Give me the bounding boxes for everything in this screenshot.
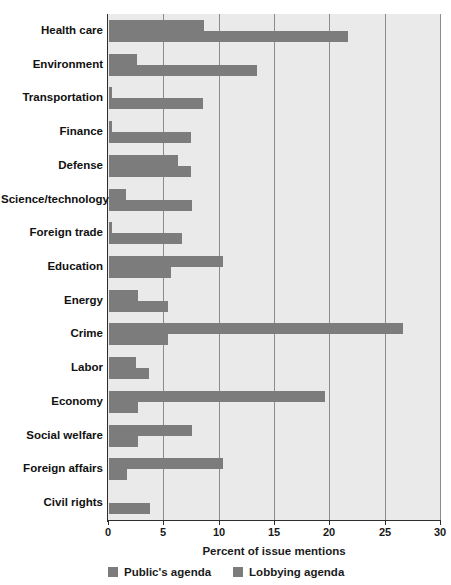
category-label: Energy [1,294,103,307]
bar [109,31,348,42]
bar [109,233,182,244]
gridline [440,14,441,520]
x-axis-tick-label: 15 [259,525,289,539]
gridline [329,14,330,520]
bar [109,290,138,301]
legend-item-publics-agenda: Public's agenda [108,566,211,578]
bar [109,65,257,76]
bar [109,357,136,368]
x-axis-tick-label: 5 [148,525,178,539]
x-axis-tick-label: 25 [370,525,400,539]
gridline [274,14,275,520]
category-label: Social welfare [1,429,103,442]
chart-legend: Public's agenda Lobbying agenda [108,566,366,578]
bar [109,436,138,447]
category-label: Civil rights [1,496,103,509]
bar [109,256,223,267]
category-label: Economy [1,395,103,408]
bar [109,222,112,233]
y-axis-line [107,14,108,522]
bar [109,402,138,413]
legend-label: Public's agenda [124,566,211,578]
x-axis-title: Percent of issue mentions [108,545,440,557]
bar [109,155,178,166]
bar [109,189,126,200]
bar [109,458,223,469]
bar [109,87,112,98]
bar [109,54,137,65]
gridline [385,14,386,520]
category-label: Foreign affairs [1,462,103,475]
gridline [219,14,220,520]
category-label: Foreign trade [1,226,103,239]
category-label: Defense [1,159,103,172]
bar [109,368,149,379]
x-axis-tick-label: 10 [204,525,234,539]
bar [109,425,192,436]
bar [109,121,112,132]
bar [109,98,203,109]
bar [109,334,168,345]
bar [109,323,403,334]
bar [109,20,204,31]
legend-label: Lobbying agenda [249,566,344,578]
bar [109,301,168,312]
bar [109,132,191,143]
x-axis-tick-label: 20 [314,525,344,539]
bar [109,200,192,211]
category-label: Finance [1,125,103,138]
bar [109,166,191,177]
bar [109,267,171,278]
category-label: Health care [1,24,103,37]
bar [109,391,325,402]
category-label: Crime [1,327,103,340]
x-axis-tick-label: 0 [93,525,123,539]
category-label: Transportation [1,91,103,104]
category-label: Education [1,260,103,273]
legend-item-lobbying-agenda: Lobbying agenda [233,566,344,578]
x-axis-tick-label: 30 [425,525,451,539]
category-label: Science/technology [1,193,103,206]
bar [109,503,150,514]
category-label: Environment [1,58,103,71]
legend-swatch-icon [108,567,118,577]
category-label: Labor [1,361,103,374]
legend-swatch-icon [233,567,243,577]
bar [109,469,127,480]
